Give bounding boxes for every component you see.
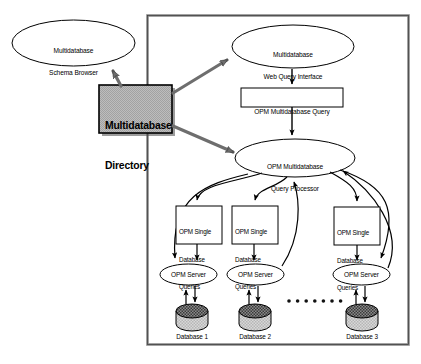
diagram-canvas	[0, 0, 421, 364]
multidatabase-query-box	[241, 88, 343, 107]
arrow-processor-to-queries-2	[255, 177, 287, 200]
arrow-processor-to-queries-3	[330, 172, 357, 201]
arrow-server-to-processor-2	[282, 182, 298, 266]
queries-box-1	[176, 206, 222, 244]
opm-server-ellipse-3	[333, 264, 390, 285]
opm-server-ellipse-1	[160, 264, 217, 285]
architecture-diagram: Multidatabase Schema Browser Multidataba…	[0, 0, 421, 364]
arrow-processor-to-queries-1	[197, 173, 262, 200]
database-cylinder-2	[239, 304, 271, 331]
arrow-directory-to-query-processor	[173, 126, 233, 152]
directory-box	[99, 85, 172, 133]
schema-browser-ellipse	[12, 20, 135, 66]
more-databases-ellipsis	[287, 299, 342, 303]
queries-box-2	[232, 206, 278, 244]
database-cylinder-1	[176, 304, 208, 331]
arrow-directory-to-schema-browser	[113, 71, 121, 86]
queries-box-3	[334, 207, 380, 245]
database-cylinder-3	[346, 304, 378, 331]
opm-server-ellipse-2	[227, 264, 284, 285]
query-processor-ellipse	[235, 139, 355, 177]
arrow-directory-to-web-query-interface	[173, 60, 227, 93]
web-query-interface-ellipse	[232, 25, 354, 68]
